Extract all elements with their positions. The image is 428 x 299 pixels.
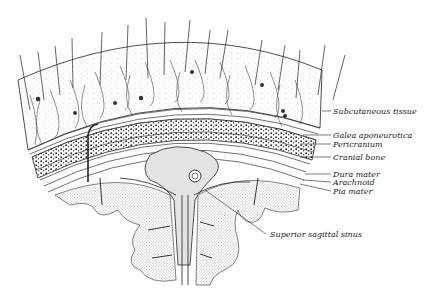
leader-arachnoid (303, 180, 331, 182)
anatomical-diagram (0, 0, 428, 299)
label-pericranium: Pericranium (333, 140, 383, 149)
label-galea-aponeurotica: Galea aponeurotica (333, 131, 412, 140)
label-superior-sagittal-sinus: Superior sagittal sinus (270, 230, 362, 239)
leader-pia (300, 184, 331, 191)
label-subcutaneous-tissue: Subcutaneous tissue (333, 107, 417, 116)
cerebral-cortex-left (55, 178, 176, 281)
label-cranial-bone: Cranial bone (333, 153, 385, 162)
label-pia-mater: Pia mater (333, 187, 372, 196)
label-arachnoid: Arachnoid (333, 178, 375, 187)
